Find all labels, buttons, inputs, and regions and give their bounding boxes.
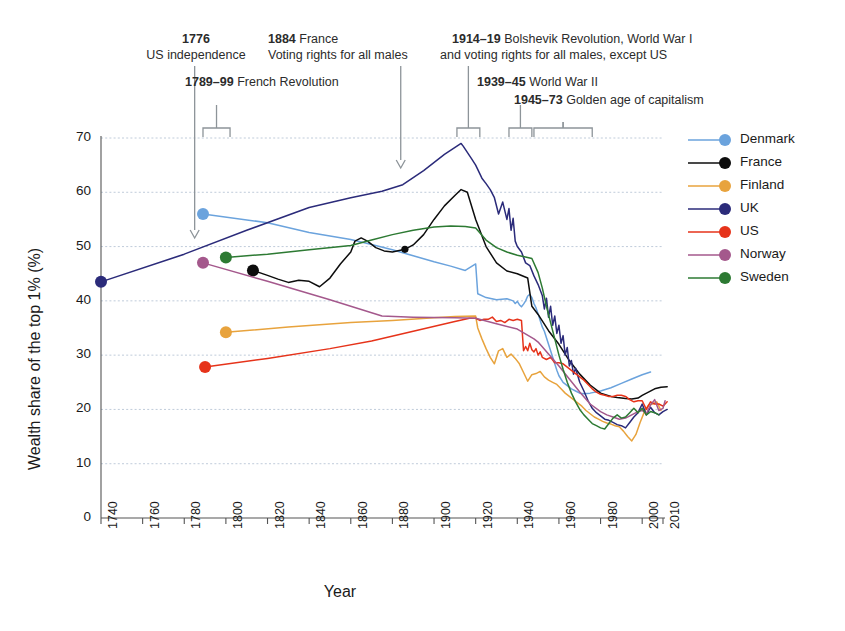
series-start-marker-france	[247, 264, 259, 276]
annotation-1914-desc: and voting rights for all males, except …	[440, 48, 692, 64]
series-line-finland	[226, 316, 661, 441]
legend-marker-norway	[719, 249, 731, 261]
x-tick-label: 1880	[397, 501, 411, 529]
x-tick-label: 1920	[481, 501, 495, 529]
series-line-france	[253, 190, 667, 400]
legend-label-denmark: Denmark	[740, 131, 795, 146]
legend-label-france: France	[740, 154, 782, 169]
x-tick-label: 1940	[522, 501, 536, 529]
annotation-1945-marker-bracket	[534, 128, 592, 137]
annotation-1939: 1939–45 World War II	[477, 75, 598, 91]
series-start-marker-uk	[95, 276, 107, 288]
series-start-marker-finland	[220, 326, 232, 338]
y-tick-label: 60	[61, 183, 91, 198]
chart-figure: 1776 US independence 1884 France Voting …	[0, 0, 845, 631]
series-marker-france	[401, 246, 408, 253]
series-start-marker-us	[199, 361, 211, 373]
legend-marker-france	[719, 157, 731, 169]
annotation-1945: 1945–73 Golden age of capitalism	[514, 93, 704, 109]
annotation-1914-year: 1914–19	[452, 32, 501, 46]
legend-marker-sweden	[719, 272, 731, 284]
annotation-1776-desc: US independence	[122, 48, 270, 64]
annotation-1789: 1789–99 French Revolution	[185, 75, 339, 91]
y-tick-label: 20	[61, 400, 91, 415]
annotation-1884: 1884 France Voting rights for all males	[268, 32, 408, 63]
y-tick-label: 50	[61, 238, 91, 253]
series-line-norway	[203, 263, 665, 419]
annotation-1884-rest: France	[299, 32, 338, 46]
annotation-1914: 1914–19 Bolshevik Revolution, World War …	[452, 32, 692, 63]
x-tick-label: 2000	[647, 501, 661, 529]
annotation-1789-year: 1789–99	[185, 75, 234, 89]
legend-label-norway: Norway	[740, 246, 786, 261]
series-start-marker-sweden	[220, 251, 232, 263]
annotation-1945-rest: Golden age of capitalism	[566, 93, 704, 107]
legend-marker-denmark	[719, 134, 731, 146]
x-tick-label: 1740	[106, 501, 120, 529]
x-tick-label: 1820	[273, 501, 287, 529]
line-chart-canvas	[0, 0, 845, 631]
x-tick-label: 1900	[439, 501, 453, 529]
series-start-marker-norway	[197, 257, 209, 269]
series-line-us	[205, 317, 667, 409]
x-axis-label: Year	[0, 583, 680, 601]
legend-label-uk: UK	[740, 200, 759, 215]
x-tick-label: 1840	[314, 501, 328, 529]
y-tick-label: 70	[61, 129, 91, 144]
y-axis-label: Wealth share of the top 1% (%)	[26, 248, 44, 470]
annotation-1914-rest: Bolshevik Revolution, World War I	[504, 32, 692, 46]
legend-label-finland: Finland	[740, 177, 784, 192]
series-line-uk	[101, 143, 667, 427]
series-line-denmark	[203, 214, 651, 394]
y-tick-label: 40	[61, 292, 91, 307]
annotation-1776-year: 1776	[182, 32, 210, 46]
annotation-1789-marker-bracket	[203, 128, 230, 137]
annotation-1939-marker-bracket	[509, 128, 532, 137]
annotation-1776: 1776 US independence	[122, 32, 270, 63]
annotation-1945-year: 1945–73	[514, 93, 563, 107]
x-tick-label: 2010	[668, 501, 682, 529]
y-tick-label: 10	[61, 455, 91, 470]
annotation-1914-marker-bracket	[457, 128, 480, 137]
legend-marker-uk	[719, 203, 731, 215]
annotation-1939-rest: World War II	[529, 75, 598, 89]
y-tick-label: 30	[61, 346, 91, 361]
x-tick-label: 1980	[606, 501, 620, 529]
annotation-1884-arrow-arrowhead	[396, 160, 405, 168]
legend-marker-us	[719, 226, 731, 238]
x-tick-label: 1760	[148, 501, 162, 529]
annotation-1884-year: 1884	[268, 32, 296, 46]
series-start-marker-denmark	[197, 208, 209, 220]
annotation-1776-arrow-arrowhead	[190, 230, 199, 238]
x-tick-label: 1780	[189, 501, 203, 529]
x-tick-label: 1860	[356, 501, 370, 529]
annotation-1884-desc: Voting rights for all males	[268, 48, 408, 64]
y-tick-label: 0	[61, 509, 91, 524]
annotation-1939-year: 1939–45	[477, 75, 526, 89]
x-tick-label: 1960	[564, 501, 578, 529]
legend-label-sweden: Sweden	[740, 269, 789, 284]
legend-marker-finland	[719, 180, 731, 192]
x-tick-label: 1800	[231, 501, 245, 529]
annotation-1789-rest: French Revolution	[237, 75, 338, 89]
legend-label-us: US	[740, 223, 759, 238]
